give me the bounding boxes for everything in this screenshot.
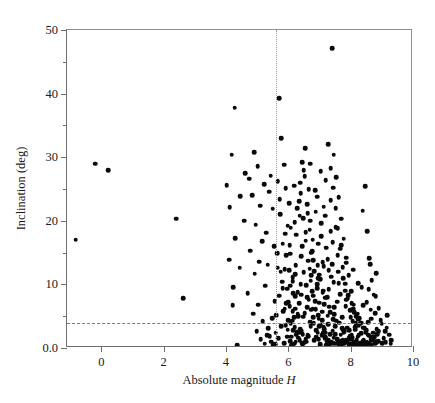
data-point [304, 283, 309, 288]
x-tick-label: 0 [98, 355, 104, 370]
data-point [327, 268, 332, 273]
data-point [279, 324, 284, 329]
data-point [322, 302, 327, 307]
data-point [238, 194, 243, 199]
y-tick-label: 40 [46, 86, 59, 101]
data-point [254, 222, 259, 227]
data-point [256, 302, 261, 307]
data-point [285, 327, 290, 332]
x-tick-label: 6 [285, 355, 291, 370]
data-point [251, 311, 256, 316]
data-point [287, 268, 292, 273]
data-point [342, 236, 347, 241]
data-point [287, 201, 292, 206]
data-point [306, 259, 311, 264]
data-point [348, 315, 353, 320]
data-point [324, 343, 329, 346]
y-axis-title: Inclination (deg) [14, 29, 30, 347]
data-point [319, 234, 324, 239]
x-tick-label: 10 [407, 355, 420, 370]
scatter-chart-figure: 0.01020304050 0246810 Inclination (deg) … [0, 0, 435, 403]
data-point [387, 332, 392, 337]
data-point [331, 185, 336, 190]
data-point [280, 280, 285, 285]
data-point [315, 194, 320, 199]
data-point [297, 330, 302, 335]
data-point [339, 217, 344, 222]
data-point [332, 152, 337, 157]
data-point [302, 174, 307, 179]
data-point [305, 211, 310, 216]
data-point [319, 221, 324, 226]
y-tick-label: 10 [46, 277, 59, 292]
data-point [360, 208, 365, 213]
data-point [315, 282, 320, 287]
y-minor-tick-mark [63, 316, 67, 317]
data-point [322, 325, 327, 330]
data-point [337, 281, 342, 286]
data-point [316, 241, 321, 246]
data-point [351, 267, 356, 272]
data-point [299, 254, 304, 259]
y-axis-title-label: Inclination (deg) [15, 146, 30, 230]
y-tick-mark [61, 284, 67, 285]
data-point [289, 344, 294, 346]
data-point [340, 265, 345, 270]
data-point [181, 296, 186, 301]
data-point [321, 288, 326, 293]
data-point [327, 287, 332, 292]
data-point [376, 329, 381, 334]
plot-area: 0.01020304050 0246810 [66, 29, 412, 347]
y-tick-label: 30 [46, 150, 59, 165]
data-point [335, 253, 340, 258]
data-point [316, 276, 321, 281]
data-point [257, 259, 262, 264]
data-point [285, 334, 290, 339]
data-point [262, 182, 267, 187]
data-point [262, 341, 267, 346]
data-point [323, 330, 328, 335]
y-tick-mark [61, 94, 67, 95]
data-point [232, 105, 237, 110]
data-point [297, 199, 302, 204]
data-point [344, 297, 349, 302]
data-point [333, 341, 338, 346]
data-point [282, 306, 287, 311]
data-point [333, 225, 338, 230]
data-point [264, 231, 269, 236]
data-point [308, 324, 313, 329]
data-point [243, 171, 248, 176]
data-point [292, 184, 297, 189]
data-point [347, 328, 352, 333]
data-point [293, 272, 298, 277]
x-axis-title-label: Absolute magnitude H [182, 373, 295, 387]
data-point [267, 189, 272, 194]
data-point [373, 294, 378, 299]
data-point [346, 273, 351, 278]
data-point [322, 205, 327, 210]
data-point [317, 324, 322, 329]
data-point [336, 269, 341, 274]
data-point [93, 161, 98, 166]
data-point [233, 236, 238, 241]
data-point [342, 330, 347, 335]
data-point [332, 305, 337, 310]
x-tick-mark [164, 346, 165, 352]
data-point [344, 260, 349, 265]
data-point [235, 343, 240, 346]
data-point [366, 287, 371, 292]
data-point [287, 243, 292, 248]
data-point [286, 300, 291, 305]
data-point [296, 336, 301, 341]
data-point [292, 315, 297, 320]
y-minor-tick-mark [63, 125, 67, 126]
data-point [294, 232, 299, 237]
data-point [258, 203, 263, 208]
data-point [73, 238, 78, 243]
data-point [368, 308, 373, 313]
data-point [344, 255, 349, 260]
data-point [311, 294, 316, 299]
data-point [248, 248, 253, 253]
data-point [367, 256, 372, 261]
data-point [365, 229, 370, 234]
